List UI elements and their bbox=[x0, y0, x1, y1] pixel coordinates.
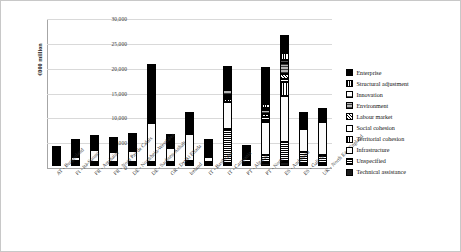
legend-swatch-icon bbox=[346, 169, 353, 176]
legend-label: Structural adjustment bbox=[356, 81, 408, 87]
y-tick-label: 15,000 bbox=[67, 91, 127, 97]
legend-swatch-icon bbox=[346, 113, 353, 120]
legend-swatch-icon bbox=[346, 91, 353, 98]
y-tick-label: 25,000 bbox=[67, 41, 127, 47]
y-tick-label: 10,000 bbox=[67, 115, 127, 121]
bar-segment bbox=[261, 122, 270, 154]
bar-segment bbox=[280, 35, 289, 52]
legend-label: Environment bbox=[356, 103, 388, 109]
bar-segment bbox=[280, 96, 289, 143]
y-tick-label: 30,000 bbox=[67, 16, 127, 22]
legend-item[interactable]: Infrastructure bbox=[346, 145, 458, 156]
legend-item[interactable]: Environment bbox=[346, 100, 458, 111]
legend-label: Innovation bbox=[356, 92, 382, 98]
bar-segment bbox=[280, 63, 289, 74]
legend-item[interactable]: Social cohesion bbox=[346, 122, 458, 133]
bar-column bbox=[280, 35, 289, 166]
y-tick-label: 20,000 bbox=[67, 66, 127, 72]
legend-swatch-icon bbox=[346, 102, 353, 109]
bar-segment bbox=[280, 82, 289, 95]
bar-segment bbox=[261, 67, 270, 105]
bar-segment bbox=[318, 122, 327, 155]
bar-segment bbox=[185, 112, 194, 122]
legend-swatch-icon bbox=[346, 158, 353, 165]
bar-column bbox=[52, 146, 61, 166]
legend-item[interactable]: Unspecified bbox=[346, 156, 458, 167]
legend-swatch-icon bbox=[346, 80, 353, 87]
bar-column bbox=[261, 67, 270, 166]
chart-legend: EnterpriseStructural adjustmentInnovatio… bbox=[346, 67, 458, 178]
legend-item[interactable]: Enterprise bbox=[346, 67, 458, 78]
legend-item[interactable]: Territorial cohesion bbox=[346, 134, 458, 145]
bar-segment bbox=[280, 53, 289, 60]
legend-item[interactable]: Innovation bbox=[346, 89, 458, 100]
bar-column bbox=[204, 139, 213, 166]
legend-swatch-icon bbox=[346, 147, 353, 154]
legend-label: Unspecified bbox=[356, 158, 385, 164]
legend-swatch-icon bbox=[346, 136, 353, 143]
legend-item[interactable]: Structural adjustment bbox=[346, 78, 458, 89]
y-axis-title: €000 million bbox=[36, 20, 43, 100]
legend-label: Labour market bbox=[356, 114, 392, 120]
legend-swatch-icon bbox=[346, 125, 353, 132]
bar-segment bbox=[147, 64, 156, 110]
legend-label: Territorial cohesion bbox=[356, 136, 404, 142]
legend-label: Social cohesion bbox=[356, 125, 394, 131]
legend-swatch-icon bbox=[346, 69, 353, 76]
legend-item[interactable]: Technical assistance bbox=[346, 167, 458, 178]
legend-label: Technical assistance bbox=[356, 169, 406, 175]
bar-segment bbox=[223, 102, 232, 128]
legend-label: Enterprise bbox=[356, 70, 381, 76]
legend-label: Infrastructure bbox=[356, 147, 389, 153]
legend-item[interactable]: Labour market bbox=[346, 111, 458, 122]
stacked-bar-chart: €000 million 05,00010,00015,00020,00025,… bbox=[0, 0, 461, 252]
bar-segment bbox=[223, 66, 232, 86]
